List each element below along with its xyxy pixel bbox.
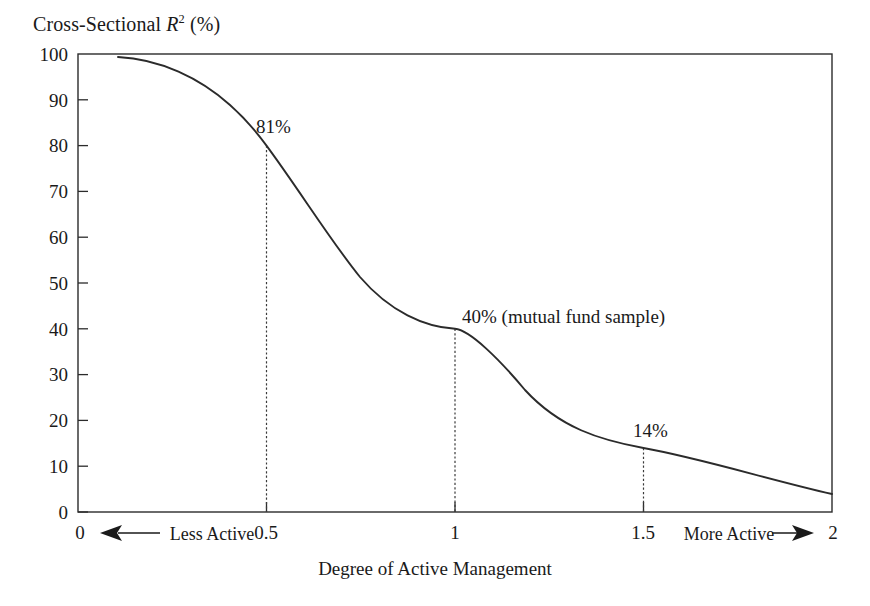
data-curve [118,57,832,494]
y-tick-label-90: 90 [49,90,68,111]
y-tick-label-0: 0 [59,502,69,523]
chart-plot-area: 0 10 20 30 40 50 60 70 80 90 100 0 0.5 1… [0,0,870,606]
x-tick-label-1p5: 1.5 [631,522,655,543]
y-tick-label-20: 20 [49,410,68,431]
annotation-14: 14% [633,420,668,441]
x-tick-label-1: 1 [450,522,460,543]
more-active-label: More Active [684,524,774,544]
y-axis-ticks [78,100,88,512]
y-tick-label-30: 30 [49,364,68,385]
y-tick-label-40: 40 [49,319,68,340]
y-tick-label-80: 80 [49,135,68,156]
annotation-labels: 81% 40% (mutual fund sample) 14% [256,116,668,441]
annotation-81: 81% [256,116,291,137]
y-tick-label-10: 10 [49,456,68,477]
less-active-direction: Less Active [100,524,254,544]
figure-canvas: Cross-Sectional R2 (%) 0 10 20 30 40 50 … [0,0,870,606]
x-tick-label-0p5: 0.5 [254,522,278,543]
x-axis-title: Degree of Active Management [0,558,870,580]
x-tick-label-0: 0 [75,522,85,543]
x-tick-label-2: 2 [828,522,838,543]
y-tick-label-50: 50 [49,273,68,294]
y-tick-label-70: 70 [49,181,68,202]
annotation-40: 40% (mutual fund sample) [462,306,665,328]
y-tick-label-100: 100 [40,44,69,65]
less-active-label: Less Active [170,524,254,544]
more-active-direction: More Active [684,524,814,544]
y-tick-label-60: 60 [49,227,68,248]
y-axis-tick-labels: 0 10 20 30 40 50 60 70 80 90 100 [40,44,69,523]
